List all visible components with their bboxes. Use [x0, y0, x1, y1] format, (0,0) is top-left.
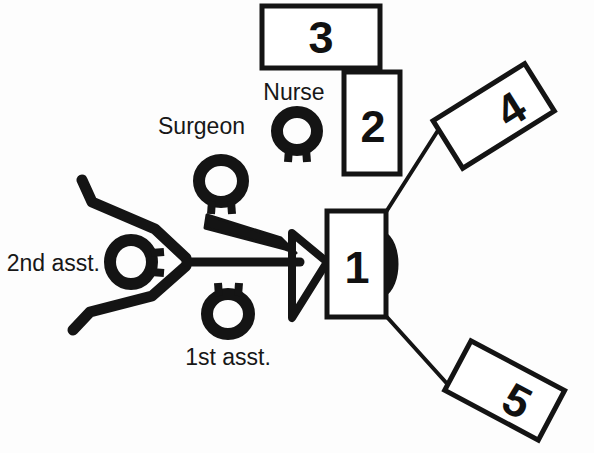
nurse-leg-right	[306, 149, 307, 162]
box-3-number: 3	[308, 12, 333, 63]
box-3[interactable]: 3	[262, 6, 380, 68]
second-assistant-leg-bottom	[151, 272, 164, 273]
nurse-head	[277, 112, 317, 150]
first-assistant-leg-right	[238, 283, 239, 296]
box-5[interactable]: 5	[444, 341, 564, 441]
person-1st-assistant-figure[interactable]	[207, 283, 249, 334]
triangle-marker	[292, 233, 327, 318]
box-4[interactable]: 4	[433, 64, 555, 170]
person-2nd-assistant-figure[interactable]	[110, 240, 164, 284]
chevron-upper-arm	[82, 180, 186, 258]
surgeon-label: Surgeon	[158, 113, 245, 139]
surgeon-head	[199, 160, 243, 202]
box-2[interactable]: 2	[344, 72, 400, 174]
nurse-label: Nurse	[263, 79, 324, 105]
second-assistant-head	[110, 240, 152, 284]
person-nurse-figure[interactable]	[277, 112, 317, 162]
second-assistant-leg-top	[151, 252, 164, 253]
nurse-leg-left	[288, 149, 289, 162]
surgeon-leg-right	[231, 201, 232, 214]
operating-room-schematic: 3 2 4 5 1	[0, 0, 594, 453]
box-1-number: 1	[344, 242, 369, 293]
diagram-canvas: 3 2 4 5 1	[0, 0, 594, 453]
surgeon-arm	[205, 215, 296, 253]
box-5-outline	[445, 341, 565, 440]
box-2-number: 2	[360, 101, 385, 152]
box-4-outline	[433, 64, 554, 169]
box-1[interactable]: 1	[327, 211, 398, 317]
first-assistant-leg-left	[218, 283, 219, 296]
first-assistant-head	[207, 294, 249, 334]
person-surgeon-figure[interactable]	[199, 160, 243, 214]
second-assistant-label: 2nd asst.	[7, 250, 100, 276]
first-assistant-label: 1st asst.	[185, 344, 271, 370]
surgeon-leg-left	[211, 201, 212, 214]
